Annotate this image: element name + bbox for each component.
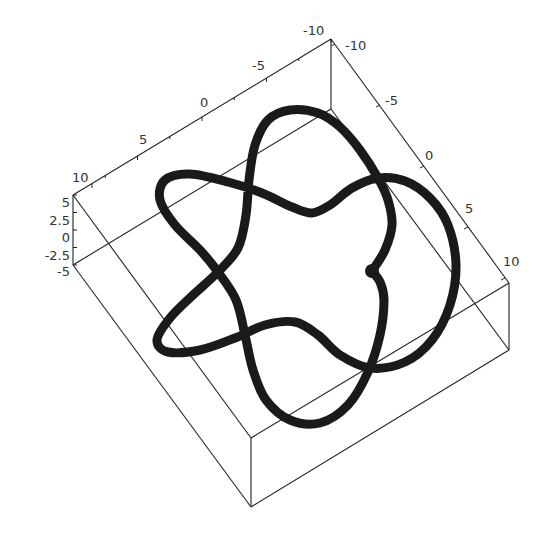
knot-3d-plot: 10 5 0 -5 -10 -10 -5 0 5 10 5 2.5 0 -2.5… (0, 0, 549, 547)
tick-label: 0 (200, 95, 208, 110)
tick-label: -5 (385, 93, 398, 108)
curve-endpoint-marker (365, 264, 379, 278)
tick-label: -10 (345, 38, 366, 53)
tick-label: 0 (425, 148, 433, 163)
tick-label: 2.5 (49, 213, 70, 228)
knot-curve (157, 110, 456, 425)
box-edge-bottom-back-left (73, 109, 331, 265)
tick-label: 10 (503, 254, 520, 269)
box-edge-bottom-front-left (73, 265, 251, 507)
vertical-axis-labels: 5 2.5 0 -2.5 -5 (45, 195, 70, 279)
tick-label: -10 (303, 23, 324, 38)
box-edge-top-front-left (73, 195, 251, 438)
tick-label: -2.5 (45, 248, 70, 263)
top-right-axis-labels: -10 -5 0 5 10 (345, 38, 520, 269)
box-edge-top-right (331, 39, 509, 283)
vertical-axis-ticks (73, 195, 77, 265)
box-edge-bottom-front-right (251, 350, 509, 507)
tick-label: 10 (72, 170, 89, 185)
tick-label: 5 (62, 195, 70, 210)
tick-label: 5 (465, 201, 473, 216)
tick-label: 0 (62, 230, 70, 245)
tick-label: -5 (57, 264, 70, 279)
top-left-axis-labels: 10 5 0 -5 -10 (72, 23, 324, 185)
tick-label: -5 (252, 58, 265, 73)
tick-label: 5 (139, 132, 147, 147)
top-right-axis-ticks (331, 44, 505, 280)
